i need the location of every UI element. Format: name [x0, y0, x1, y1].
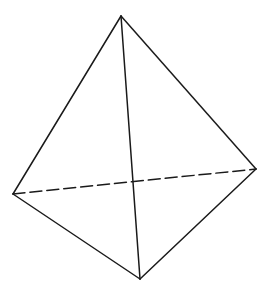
- edge-left-bottom: [13, 194, 140, 279]
- edge-top-right: [121, 16, 256, 169]
- edge-top-left: [13, 16, 121, 194]
- edge-top-bottom: [121, 16, 140, 279]
- tetrahedron-edges: [13, 16, 256, 279]
- tetrahedron-diagram: [0, 0, 271, 297]
- edge-left-right-hidden: [13, 169, 256, 194]
- tetrahedron-figure: [0, 0, 271, 297]
- edge-right-bottom: [140, 169, 256, 279]
